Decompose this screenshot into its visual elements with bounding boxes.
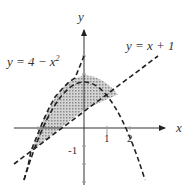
- y-axis-label: y: [76, 9, 84, 24]
- x-tick-label-2: 2: [127, 132, 133, 144]
- region-diagram: y x 1 2 -1 y = 4 − x2 y = x + 1: [0, 0, 193, 196]
- line-curve: [14, 56, 158, 164]
- x-axis-label: x: [175, 120, 182, 135]
- parabola-label: y = 4 − x2: [5, 54, 60, 69]
- line-label: y = x + 1: [124, 38, 175, 53]
- x-tick-label-1: 1: [104, 132, 110, 144]
- y-tick-label-neg1: -1: [68, 144, 77, 156]
